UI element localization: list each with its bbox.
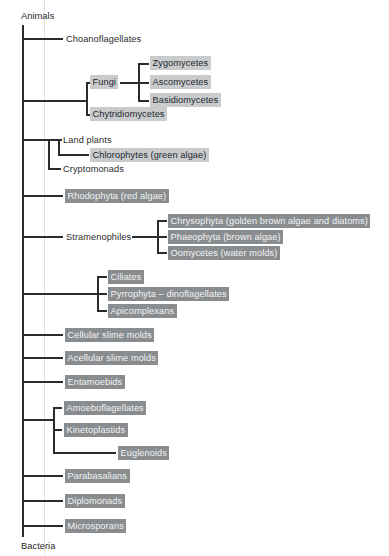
branch-cellular-slime-molds bbox=[22, 334, 63, 336]
branch-chrysophyta bbox=[157, 220, 167, 222]
bracket-fungi-chytrid bbox=[86, 82, 88, 114]
taxon-amoeboflagellates: Amoeboflagellates bbox=[64, 401, 146, 415]
taxon-chytridiomycetes: Chytridiomycetes bbox=[90, 107, 167, 121]
branch-diplomonads bbox=[22, 500, 63, 502]
branch-stramenophile-clades bbox=[132, 236, 158, 238]
taxon-chrysophyta: Chrysophyta (golden brown algae and diat… bbox=[168, 214, 370, 228]
branch-mycetes-group bbox=[120, 82, 139, 84]
taxon-entamoebids: Entamoebids bbox=[65, 375, 125, 389]
branch-ascomycetes bbox=[138, 82, 149, 84]
taxon-parabasalians: Parabasalians bbox=[65, 469, 130, 483]
branch-chlorophytes bbox=[58, 154, 89, 156]
taxon-basidiomycetes: Basidiomycetes bbox=[150, 93, 221, 107]
branch-basidiomycetes bbox=[138, 100, 149, 102]
taxon-land-plants: Land plants bbox=[62, 134, 113, 147]
taxon-fungi: Fungi bbox=[90, 75, 118, 89]
branch-ciliates bbox=[97, 276, 107, 278]
bracket-plant-crypto bbox=[48, 139, 50, 169]
branch-phaeophyta bbox=[157, 236, 167, 238]
taxon-zygomycetes: Zygomycetes bbox=[150, 56, 211, 70]
branch-entamoebids bbox=[22, 381, 63, 383]
taxon-apicomplexans: Apicomplexans bbox=[108, 304, 177, 318]
branch-stramenophiles bbox=[22, 236, 63, 238]
branch-kinetoplastids bbox=[53, 429, 62, 431]
branch-choanoflagellates bbox=[22, 38, 63, 40]
background-guide-line bbox=[44, 0, 45, 556]
taxon-euglenoids: Euglenoids bbox=[118, 446, 169, 460]
branch-alveolate-group bbox=[22, 293, 98, 295]
branch-cryptomonads bbox=[48, 168, 61, 170]
branch-oomycetes bbox=[157, 252, 167, 254]
branch-amoeboflagellates bbox=[53, 407, 62, 409]
branch-fungi-group bbox=[22, 100, 87, 102]
branch-excavate-group bbox=[22, 419, 54, 421]
taxon-ciliates: Ciliates bbox=[108, 270, 144, 284]
taxon-microsporans: Microsporans bbox=[65, 519, 126, 533]
taxon-phaeophyta: Phaeophyta (brown algae) bbox=[168, 230, 283, 244]
bracket-greenplant bbox=[58, 139, 60, 155]
taxon-pyrrophyta: Pyrrophyta – dinoflagellates bbox=[108, 287, 229, 301]
branch-plant-crypto-group bbox=[22, 139, 49, 141]
base-label-bacteria: Bacteria bbox=[21, 540, 55, 551]
taxon-choanoflagellates: Choanoflagellates bbox=[65, 33, 142, 46]
branch-zygomycetes bbox=[138, 63, 149, 65]
phylogenetic-tree-figure: Animals Choanoflagellates Fungi Chytridi… bbox=[0, 0, 389, 556]
taxon-stramenophiles: Stramenophiles bbox=[65, 231, 132, 244]
taxon-rhodophyta: Rhodophyta (red algae) bbox=[65, 189, 169, 203]
branch-pyrrophyta bbox=[97, 293, 107, 295]
taxon-cellular-slime-molds: Cellular slime molds bbox=[65, 328, 154, 342]
branch-parabasalians bbox=[22, 475, 63, 477]
taxon-chlorophytes: Chlorophytes (green algae) bbox=[90, 148, 209, 162]
branch-rhodophyta bbox=[22, 195, 63, 197]
branch-euglenoids bbox=[53, 452, 116, 454]
taxon-acellular-slime-molds: Acellular slime molds bbox=[65, 351, 158, 365]
branch-apicomplexans bbox=[97, 310, 107, 312]
branch-acellular-slime-molds bbox=[22, 357, 63, 359]
taxon-kinetoplastids: Kinetoplastids bbox=[64, 423, 128, 437]
taxon-ascomycetes: Ascomycetes bbox=[150, 75, 211, 89]
taxon-cryptomonads: Cryptomonads bbox=[62, 163, 125, 176]
taxon-diplomonads: Diplomonads bbox=[65, 494, 125, 508]
branch-microsporans bbox=[22, 525, 63, 527]
root-label-animals: Animals bbox=[21, 10, 54, 21]
taxon-oomycetes: Oomycetes (water molds) bbox=[168, 246, 280, 260]
